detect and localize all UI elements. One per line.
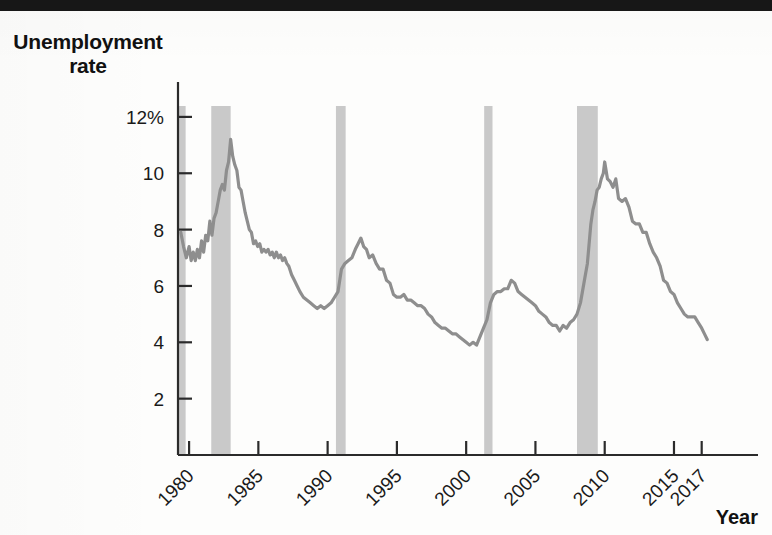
axes-group <box>178 82 758 455</box>
y-tick-label: 10 <box>143 163 164 184</box>
tick-marks-group <box>178 117 702 455</box>
unemployment-rate-line <box>181 139 707 345</box>
x-tick-label: 1995 <box>361 465 406 510</box>
x-tick-label: 1980 <box>153 465 198 510</box>
x-tick-label: 1985 <box>222 465 267 510</box>
y-tick-label: 8 <box>153 220 164 241</box>
y-tick-label: 2 <box>153 389 164 410</box>
unemployment-rate-chart: Unemployment rate Year 24681012% 1980198… <box>0 0 772 535</box>
y-tick-labels-group: 24681012% <box>126 107 164 410</box>
plot-area: 24681012% 198019851990199520002005201020… <box>0 0 772 535</box>
y-tick-label: 4 <box>153 332 164 353</box>
y-tick-label: 6 <box>153 276 164 297</box>
x-tick-label: 2000 <box>430 465 475 510</box>
x-tick-label: 1990 <box>292 465 337 510</box>
recession-2001 <box>484 106 492 455</box>
x-tick-label: 2010 <box>569 465 614 510</box>
recession-2007-2009 <box>577 106 598 455</box>
x-tick-labels-group: 198019851990199520002005201020152017 <box>153 465 710 510</box>
y-tick-label: 12% <box>126 107 164 128</box>
data-series-group <box>181 139 707 345</box>
x-tick-label: 2005 <box>500 465 545 510</box>
left-margin-band <box>179 106 186 455</box>
